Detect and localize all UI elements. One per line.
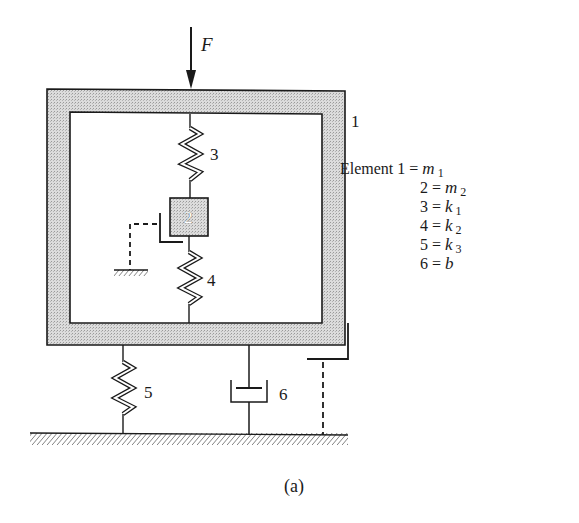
legend-key: 1 (397, 160, 405, 177)
force-label: F (201, 35, 213, 54)
force-arrow-icon (186, 27, 196, 89)
schematic-canvas (0, 0, 579, 523)
damper-6-icon (231, 345, 267, 435)
legend-equals: = (409, 160, 418, 177)
legend-row: 3 = k1 (420, 197, 466, 216)
legend-key: 4 (420, 217, 428, 234)
legend-var: k (445, 216, 453, 235)
legend-equals: = (432, 236, 441, 253)
legend-var: m (445, 178, 457, 197)
legend-equals: = (432, 198, 441, 215)
frame-label: 1 (351, 113, 360, 130)
legend-row: 6 = b (420, 254, 466, 273)
spring-5-icon (115, 345, 133, 433)
legend-sub: 3 (456, 242, 462, 256)
legend-row: 5 = k3 (420, 235, 466, 254)
legend-key: 6 (420, 255, 428, 272)
legend-row: Element 1 = m1 (340, 159, 466, 178)
element-legend: Element 1 = m1 2 = m2 3 = k1 4 = k2 5 = … (408, 159, 466, 273)
spring-5-label: 5 (144, 384, 153, 401)
ground-hatch (30, 433, 348, 445)
legend-key: 3 (420, 198, 428, 215)
spring-4-label: 4 (207, 272, 216, 289)
legend-var: m (422, 159, 434, 178)
legend-var: k (445, 197, 453, 216)
legend-var: k (445, 235, 453, 254)
legend-row: 2 = m2 (420, 178, 466, 197)
legend-equals: = (432, 217, 441, 234)
legend-prefix: Element (340, 160, 393, 177)
damper-6-label: 6 (279, 386, 288, 403)
spring-4-icon (181, 236, 199, 323)
spring-3-label: 3 (210, 146, 219, 163)
figure-caption: (a) (284, 477, 304, 495)
legend-equals: = (432, 179, 441, 196)
legend-equals: = (432, 255, 441, 272)
spring-3-icon (182, 114, 200, 198)
legend-key: 2 (420, 179, 428, 196)
legend-key: 5 (420, 236, 428, 253)
legend-row: 4 = k2 (420, 216, 466, 235)
mass-2-label: 2 (184, 209, 193, 226)
legend-var: b (445, 254, 454, 273)
